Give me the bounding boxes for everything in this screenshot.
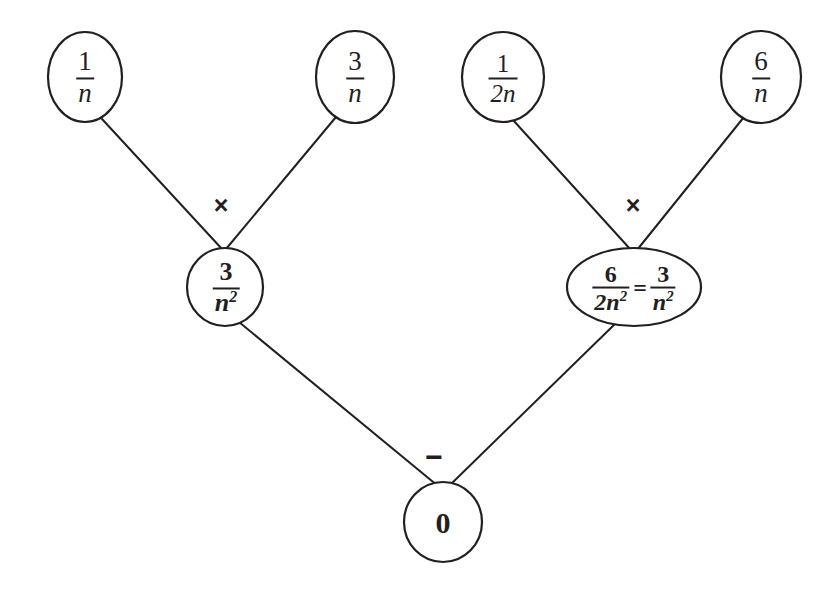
fraction-denominator: n2 [213, 287, 240, 317]
fraction-denominator: 2n2 [592, 287, 629, 314]
fraction-3-over-n-squared-result: 3 n2 [651, 262, 676, 315]
fraction-1-over-n: 1 n [76, 48, 94, 107]
denominator-base: n [653, 289, 666, 315]
denominator-exponent: 2 [620, 288, 627, 304]
multiply-operator-right-icon: × [626, 193, 641, 218]
fraction-3-over-n-squared: 3 n2 [213, 259, 240, 316]
fraction-denominator: n2 [651, 287, 676, 314]
fraction-1-over-2n: 1 2n [489, 51, 518, 106]
edge-1-over-2n-to-right-product [513, 120, 631, 250]
node-label-root-zero: 0 [436, 508, 451, 538]
denominator-base: 2n [594, 289, 619, 315]
fraction-numerator: 3 [651, 262, 676, 287]
node-label-6-over-n: 6 n [752, 48, 770, 107]
edge-6-over-n-to-right-product [637, 117, 744, 250]
denominator-base: n [215, 288, 229, 317]
fraction-denominator: n [752, 77, 770, 108]
equation-row: 6 2n2 = 3 n2 [592, 262, 675, 315]
node-label-3-over-n: 3 n [346, 48, 364, 107]
fraction-numerator: 3 [213, 259, 240, 287]
fraction-6-over-n: 6 n [752, 48, 770, 107]
fraction-6-over-2n-squared: 6 2n2 [592, 262, 629, 315]
denominator-exponent: 2 [666, 288, 673, 304]
fraction-3-over-n: 3 n [346, 48, 364, 107]
expression-tree-diagram: 1 n 3 n 1 2n 6 n 3 n2 6 2n2 [0, 0, 835, 597]
fraction-denominator: n [346, 77, 364, 108]
node-shape-group [48, 31, 801, 562]
fraction-numerator: 1 [76, 48, 94, 77]
node-label-right-product: 6 2n2 = 3 n2 [592, 262, 675, 315]
fraction-numerator: 3 [346, 48, 364, 77]
node-label-left-product: 3 n2 [213, 259, 240, 316]
fraction-denominator: 2n [489, 77, 518, 106]
edge-right-product-to-root [449, 322, 617, 486]
denominator-exponent: 2 [229, 287, 237, 304]
edge-1-over-n-to-left-product [102, 119, 222, 249]
fraction-numerator: 6 [592, 262, 629, 287]
equals-sign: = [632, 276, 648, 300]
fraction-denominator: n [76, 77, 94, 108]
edge-3-over-n-to-left-product [226, 117, 336, 249]
node-label-1-over-n: 1 n [76, 48, 94, 107]
node-label-1-over-2n: 1 2n [489, 51, 518, 106]
multiply-operator-left-icon: × [214, 193, 229, 218]
edge-left-product-to-root [239, 322, 438, 486]
diagram-canvas [0, 0, 835, 597]
fraction-numerator: 6 [752, 48, 770, 77]
fraction-numerator: 1 [489, 51, 518, 78]
minus-operator-icon: − [425, 442, 443, 472]
